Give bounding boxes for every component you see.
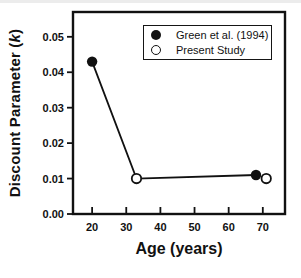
x-tick-label: 40 xyxy=(154,221,166,233)
y-axis-title-suffix: ) xyxy=(6,29,23,34)
open-circle-icon xyxy=(151,45,161,55)
y-tick-label: 0.02 xyxy=(43,137,64,149)
data-line xyxy=(92,62,256,179)
data-point-filled-circle xyxy=(87,56,97,66)
y-axis-title-prefix: Discount Parameter ( xyxy=(6,42,23,197)
y-tick-label: 0.01 xyxy=(43,173,64,185)
legend-label: Present Study xyxy=(176,45,245,56)
x-tick-label: 70 xyxy=(257,221,269,233)
legend: Green et al. (1994) Present Study xyxy=(143,25,272,60)
data-point-filled-circle xyxy=(251,170,261,180)
y-axis-title: Discount Parameter (k) xyxy=(6,29,23,198)
data-point-open-circle xyxy=(262,174,271,183)
scan-edge-artifact xyxy=(0,0,301,3)
x-tick-label: 30 xyxy=(120,221,132,233)
y-tick-label: 0.04 xyxy=(43,66,65,78)
y-axis-title-variable: k xyxy=(6,34,23,43)
x-tick-label: 60 xyxy=(223,221,235,233)
y-tick-label: 0.05 xyxy=(43,31,64,43)
x-axis-title: Age (years) xyxy=(135,240,222,258)
x-tick-label: 50 xyxy=(188,221,200,233)
discounting-by-age-chart: 0.000.010.020.030.040.05203040506070 Dis… xyxy=(0,0,301,278)
legend-label: Green et al. (1994) xyxy=(176,30,268,41)
data-point-open-circle xyxy=(132,174,141,183)
legend-item-present-study: Present Study xyxy=(144,43,271,57)
x-tick-label: 20 xyxy=(86,221,98,233)
filled-circle-icon xyxy=(151,30,161,40)
y-tick-label: 0.00 xyxy=(43,208,64,220)
y-tick-label: 0.03 xyxy=(43,102,64,114)
legend-item-green-et-al: Green et al. (1994) xyxy=(144,28,271,42)
